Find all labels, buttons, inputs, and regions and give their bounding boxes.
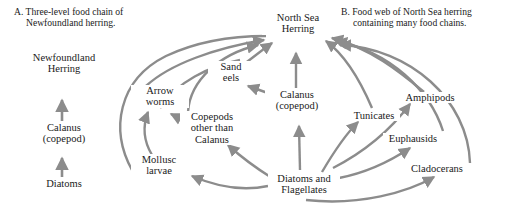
node-diatoms-and-flagellates: Diatoms and Flagellates [268,173,340,196]
food-web-figure: A. Three-level food chain of Newfoundlan… [0,0,512,215]
node-arrow-worms: Arrow worms [131,85,189,108]
node-label-line1: Arrow [146,85,173,96]
node-label-line2: Herring [263,23,333,34]
edge-diatoms-to-molluscl [192,176,268,188]
node-label-line2: larvae [132,165,186,176]
node-label-line1: Calanus [280,89,314,100]
node-label-line1: Amphipods [405,92,454,103]
edge-molluscl-to-arrowworms [145,112,152,155]
node-north-sea-herring: North Sea Herring [262,12,334,35]
node-label-line1: Cladocerans [411,163,463,174]
node-copepods-other-than-calanus: Copepods other than Calanus [180,111,244,145]
edge-diatoms-to-copepodsother [228,145,272,178]
node-amphipods: Amphipods [400,92,460,103]
caption-a-line2: Newfoundland herring. [14,17,123,28]
node-euphausids: Euphausids [383,133,443,144]
node-label-line1: Diatoms and [277,173,330,184]
node-cladocerans: Cladocerans [405,163,469,174]
edge-diatoms-to-calanusb [299,126,300,170]
node-newfoundland-herring: Newfoundland Herring [18,52,110,75]
node-mollusc-larvae: Mollusc larvae [131,154,187,177]
caption-b-line2: containing many food chains. [341,17,472,28]
node-label-line1: Mollusc [142,154,176,165]
edge-diatoms-to-euphausids [339,148,410,178]
caption-b-line1: B. Food web of North Sea herring [341,6,472,17]
node-label-line2: other than [181,122,243,133]
node-diatoms-a: Diatoms [22,178,106,189]
node-label-line2: worms [132,96,188,107]
caption-panel-a: A. Three-level food chain of Newfoundlan… [14,6,123,29]
node-label-line2: (copepod) [23,133,105,144]
node-calanus-b: Calanus (copepod) [265,89,329,112]
node-sand-eels: Sand eels [208,61,254,84]
node-label-line2: eels [209,72,253,83]
node-label-line2: Herring [19,63,109,74]
node-label-line2: Flagellates [269,184,339,195]
node-calanus-a: Calanus (copepod) [22,122,106,145]
caption-panel-b: B. Food web of North Sea herring contain… [341,6,472,29]
node-label-line2: (copepod) [266,100,328,111]
node-label-line1: Calanus [47,122,81,133]
node-label-line1: North Sea [277,12,319,23]
caption-a-line1: A. Three-level food chain of [14,6,123,17]
node-label-line1: Newfoundland [33,52,95,63]
node-label-line1: Tunicates [354,110,394,121]
node-label-line1: Diatoms [46,178,82,189]
node-tunicates: Tunicates [348,110,400,121]
edge-cladocerans-to-herring [340,45,470,163]
node-label-line3: Calanus [181,134,243,145]
node-label-line1: Sand [221,61,242,72]
node-label-line1: Copepods [191,111,233,122]
node-label-line1: Euphausids [389,133,437,144]
